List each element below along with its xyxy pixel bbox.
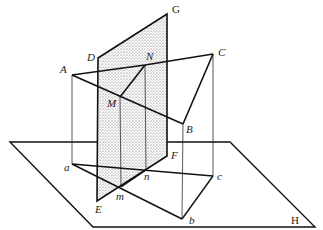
label-f: F: [170, 149, 178, 161]
label-a: A: [59, 63, 67, 75]
label-d: D: [86, 51, 95, 63]
geometry-diagram: G D A N C M B F a n c m E b H: [0, 0, 323, 230]
label-e: E: [94, 203, 102, 215]
label-m-proj: m: [116, 190, 124, 202]
label-g: G: [172, 3, 180, 15]
triangle-abc-projection: [72, 164, 213, 219]
label-h: H: [291, 214, 299, 226]
label-b: B: [186, 123, 193, 135]
label-a-proj: a: [64, 161, 70, 173]
label-n-proj: n: [144, 170, 150, 182]
label-m: M: [106, 97, 117, 109]
label-b-proj: b: [189, 214, 195, 226]
label-c-proj: c: [217, 170, 222, 182]
label-c: C: [218, 46, 226, 58]
label-n: N: [145, 50, 154, 62]
